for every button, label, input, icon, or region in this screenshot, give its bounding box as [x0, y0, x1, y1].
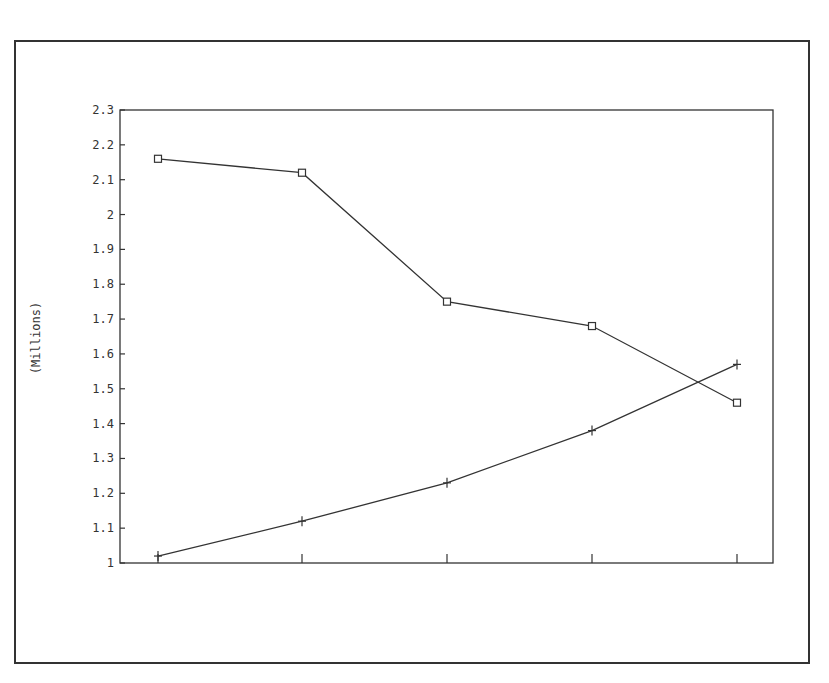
series-line [158, 159, 737, 403]
square-marker-icon [155, 155, 162, 162]
y-axis-label: (Millions) [29, 302, 43, 374]
square-marker-icon [734, 399, 741, 406]
y-tick-label: 1.3 [92, 451, 114, 465]
plus-marker-icon [733, 359, 741, 369]
series-1 [155, 155, 741, 406]
square-marker-icon [589, 323, 596, 330]
y-tick-label: 2.2 [92, 138, 114, 152]
y-tick-label: 2 [107, 208, 114, 222]
series-group [154, 155, 741, 561]
series-2 [154, 359, 741, 561]
square-marker-icon [444, 298, 451, 305]
y-tick-label: 1.9 [92, 242, 114, 256]
y-tick-label: 1.6 [92, 347, 114, 361]
y-tick-label: 1.1 [92, 521, 114, 535]
plus-marker-icon [298, 516, 306, 526]
plus-marker-icon [443, 478, 451, 488]
y-tick-label: 1.8 [92, 277, 114, 291]
plus-marker-icon [154, 551, 162, 561]
y-tick-label: 1.2 [92, 486, 114, 500]
y-tick-label: 2.1 [92, 173, 114, 187]
y-tick-label: 2.3 [92, 103, 114, 117]
y-tick-label: 1.4 [92, 417, 114, 431]
line-chart: 11.11.21.31.41.51.61.71.81.922.12.22.3 (… [0, 0, 829, 683]
x-axis [158, 554, 737, 563]
figure-caption [14, 672, 414, 683]
y-tick-label: 1.7 [92, 312, 114, 326]
y-tick-label: 1.5 [92, 382, 114, 396]
plot-border [120, 110, 773, 563]
square-marker-icon [299, 169, 306, 176]
y-tick-label: 1 [107, 556, 114, 570]
series-line [158, 364, 737, 556]
plot-area [120, 110, 773, 563]
plus-marker-icon [588, 426, 596, 436]
